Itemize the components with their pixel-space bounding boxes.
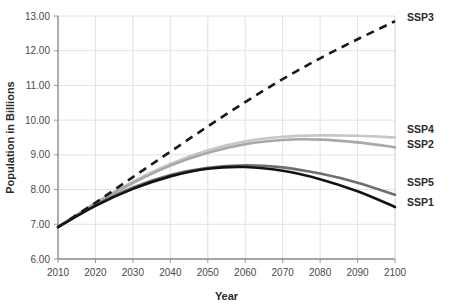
x-tick-label: 2050 bbox=[197, 267, 220, 278]
y-tick-label: 6.00 bbox=[31, 254, 51, 265]
plot-background bbox=[58, 16, 395, 259]
series-label-ssp5: SSP5 bbox=[407, 176, 434, 188]
series-label-ssp3: SSP3 bbox=[407, 11, 434, 23]
chart-canvas: 6.007.008.009.0010.0011.0012.0013.002010… bbox=[0, 0, 452, 305]
x-tick-label: 2040 bbox=[159, 267, 182, 278]
x-tick-label: 2020 bbox=[84, 267, 107, 278]
y-tick-label: 7.00 bbox=[31, 219, 51, 230]
x-tick-label: 2080 bbox=[309, 267, 332, 278]
x-tick-label: 2010 bbox=[47, 267, 70, 278]
y-tick-label: 13.00 bbox=[25, 11, 50, 22]
x-tick-label: 2030 bbox=[122, 267, 145, 278]
y-tick-label: 12.00 bbox=[25, 45, 50, 56]
y-tick-label: 10.00 bbox=[25, 115, 50, 126]
x-tick-label: 2070 bbox=[272, 267, 295, 278]
y-tick-label: 8.00 bbox=[31, 184, 51, 195]
series-label-ssp4: SSP4 bbox=[407, 123, 434, 135]
x-axis-title: Year bbox=[215, 290, 239, 302]
y-tick-label: 9.00 bbox=[31, 149, 51, 160]
series-label-ssp1: SSP1 bbox=[407, 196, 434, 208]
y-axis-title: Population in Billions bbox=[4, 81, 16, 193]
x-tick-label: 2100 bbox=[384, 267, 407, 278]
series-label-ssp2: SSP2 bbox=[407, 138, 434, 150]
y-tick-label: 11.00 bbox=[26, 80, 51, 91]
x-tick-label: 2090 bbox=[346, 267, 369, 278]
x-tick-label: 2060 bbox=[234, 267, 257, 278]
population-projection-chart: 6.007.008.009.0010.0011.0012.0013.002010… bbox=[0, 0, 452, 305]
